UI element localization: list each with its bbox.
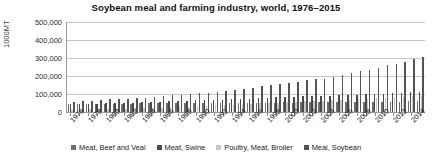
bar (315, 79, 317, 112)
bar-cluster (201, 22, 210, 112)
bar-cluster (94, 22, 103, 112)
bar (261, 86, 263, 112)
legend-swatch-icon (304, 145, 309, 150)
legend-swatch-icon (71, 145, 76, 150)
bar-cluster (219, 22, 228, 112)
bar-cluster (148, 22, 157, 112)
bar-cluster (192, 22, 201, 112)
bar-cluster (344, 22, 353, 112)
y-tick-label: 500,000 (35, 18, 62, 27)
bar-cluster (398, 22, 407, 112)
bar-cluster (291, 22, 300, 112)
bar-cluster (67, 22, 76, 112)
bar-cluster (318, 22, 327, 112)
y-tick-label: 300,000 (35, 54, 62, 63)
y-tick-label: 400,000 (35, 36, 62, 45)
bar-cluster (210, 22, 219, 112)
legend-label: Meat, Beef and Veal (79, 143, 146, 152)
bar-cluster (407, 22, 416, 112)
bar (387, 65, 389, 112)
y-tick-label: 100,000 (35, 90, 62, 99)
bar (324, 79, 326, 112)
bar-cluster (353, 22, 362, 112)
legend-item[interactable]: Meat, Beef and Veal (71, 143, 146, 152)
bar (288, 83, 290, 112)
legend-label: Meal, Soybean (312, 143, 361, 152)
legend-item[interactable]: Meal, Soybean (304, 143, 361, 152)
legend-item[interactable]: Poultry, Meat, Broiler (216, 143, 292, 152)
bar (252, 88, 254, 112)
bar-cluster (246, 22, 255, 112)
bar-cluster (264, 22, 273, 112)
bar-cluster (389, 22, 398, 112)
bar (342, 75, 344, 112)
bar-cluster (112, 22, 121, 112)
bar-cluster (183, 22, 192, 112)
bar-cluster (380, 22, 389, 112)
y-axis-tick-labels: 500,000400,000300,000200,000100,0000 (0, 0, 66, 162)
bar-cluster (85, 22, 94, 112)
bar (181, 95, 183, 112)
bar (351, 73, 353, 112)
legend-label: Poultry, Meat, Broiler (224, 143, 292, 152)
legend-swatch-icon (157, 145, 162, 150)
bar-cluster (282, 22, 291, 112)
bar (217, 92, 219, 112)
bar-cluster (273, 22, 282, 112)
legend-swatch-icon (216, 145, 221, 150)
bar (369, 70, 371, 112)
bar (199, 93, 201, 112)
bar (234, 90, 236, 112)
bar (279, 84, 281, 112)
y-tick-label: 200,000 (35, 72, 62, 81)
bar-cluster (76, 22, 85, 112)
bar (378, 68, 380, 112)
bar-cluster (309, 22, 318, 112)
bar-cluster (103, 22, 112, 112)
bar (422, 57, 424, 112)
bar (333, 77, 335, 112)
x-axis-tick-labels: 1976197819801982198419861988199019921994… (66, 113, 424, 143)
bar-cluster (157, 22, 166, 112)
bar (413, 59, 415, 112)
bar (360, 71, 362, 112)
bar-cluster (130, 22, 139, 112)
chart-container: Soybean meal and farming industry, world… (0, 0, 432, 162)
bar-cluster (165, 22, 174, 112)
bar-cluster (228, 22, 237, 112)
bar-cluster (362, 22, 371, 112)
bar (163, 96, 165, 112)
bar-cluster (121, 22, 130, 112)
bar-cluster (416, 22, 425, 112)
bar (396, 64, 398, 112)
chart-legend: Meat, Beef and VealMeat, SwinePoultry, M… (0, 143, 432, 152)
bar-series-layer (67, 22, 425, 112)
bar (404, 62, 406, 112)
plot-area (66, 22, 425, 113)
bar-cluster (371, 22, 380, 112)
bar-cluster (237, 22, 246, 112)
legend-label: Meat, Swine (165, 143, 206, 152)
bar-cluster (255, 22, 264, 112)
bar-cluster (139, 22, 148, 112)
bar-cluster (336, 22, 345, 112)
bar-cluster (174, 22, 183, 112)
bar (270, 85, 272, 112)
bar (306, 80, 308, 112)
legend-item[interactable]: Meat, Swine (157, 143, 206, 152)
bar-cluster (300, 22, 309, 112)
y-tick-label: 0 (58, 108, 62, 117)
bar (297, 82, 299, 112)
bar-cluster (327, 22, 336, 112)
